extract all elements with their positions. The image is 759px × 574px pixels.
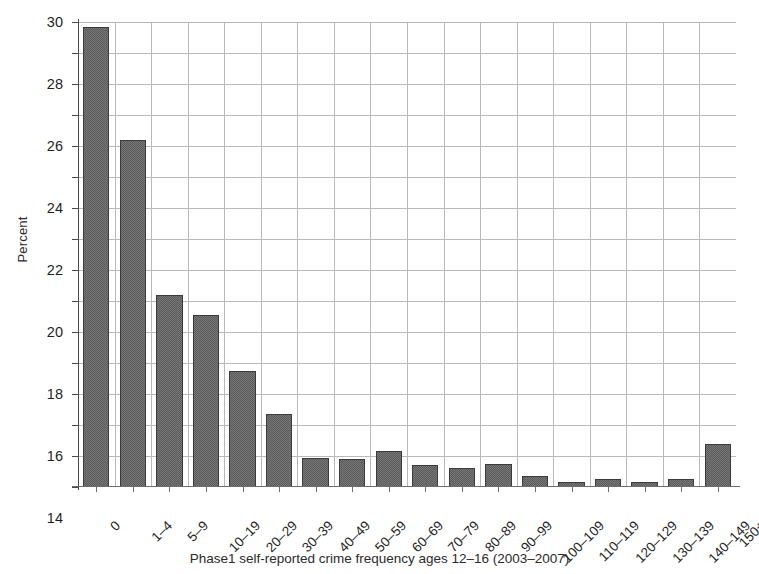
x-axis-tick	[608, 487, 609, 492]
gridline-vertical	[188, 22, 189, 487]
x-axis-tick	[535, 487, 536, 492]
y-axis-tick-label: 16	[47, 448, 63, 464]
x-axis-tick	[681, 487, 682, 492]
gridline-vertical	[444, 22, 445, 487]
x-axis-tick-label: 40–49	[336, 518, 373, 555]
gridline-vertical	[590, 22, 591, 487]
x-axis-tick-label: 30–39	[299, 518, 336, 555]
x-axis-tick	[352, 487, 353, 492]
x-axis-title: Phase1 self-reported crime frequency age…	[0, 551, 759, 566]
bar	[412, 465, 438, 487]
x-axis-tick	[206, 487, 207, 492]
gridline-vertical	[115, 22, 116, 487]
y-axis-tick-label: 30	[47, 14, 63, 30]
y-axis-tick-label: 24	[47, 200, 63, 216]
bar	[120, 140, 146, 487]
gridline-vertical	[407, 22, 408, 487]
x-axis-tick-label: 20–29	[262, 518, 299, 555]
x-axis-tick-label: 5–9	[185, 518, 212, 545]
bar	[485, 464, 511, 487]
bar	[705, 444, 731, 487]
x-axis-tick-label: 80–89	[482, 518, 519, 555]
x-axis-tick	[243, 487, 244, 492]
x-axis-tick-label: 60–69	[409, 518, 446, 555]
bar	[83, 27, 109, 487]
x-axis-line	[72, 486, 740, 487]
x-axis-tick	[169, 487, 170, 492]
gridline-vertical	[224, 22, 225, 487]
gridline-vertical	[553, 22, 554, 487]
gridline-vertical	[334, 22, 335, 487]
y-axis-tick-label: 28	[47, 76, 63, 92]
gridline-vertical	[663, 22, 664, 487]
x-axis-tick-label: 70–79	[445, 518, 482, 555]
x-axis-tick-label: 0	[107, 518, 123, 534]
y-axis-tick-label: 22	[47, 262, 63, 278]
x-axis-tick	[389, 487, 390, 492]
x-axis-tick-label: 10–19	[226, 518, 263, 555]
x-axis-tick	[572, 487, 573, 492]
x-axis-tick	[425, 487, 426, 492]
gridline-vertical	[517, 22, 518, 487]
plot-area: 024681012141618202224262830 01–45–910–19…	[78, 22, 736, 487]
x-axis-tick	[279, 487, 280, 492]
x-axis-tick	[645, 487, 646, 492]
bar	[302, 458, 328, 487]
gridline-vertical	[699, 22, 700, 487]
x-axis-tick	[316, 487, 317, 492]
y-axis-title: Percent	[15, 200, 30, 280]
bar-chart: Percent 024681012141618202224262830 01–4…	[0, 0, 759, 574]
bar	[376, 451, 402, 487]
gridline-vertical	[370, 22, 371, 487]
bar	[449, 468, 475, 487]
bar	[339, 459, 365, 487]
x-axis-tick	[133, 487, 134, 492]
x-axis-tick-label: 50–59	[372, 518, 409, 555]
gridline-vertical	[261, 22, 262, 487]
y-axis-tick-label: 20	[47, 324, 63, 340]
gridline-vertical	[151, 22, 152, 487]
x-axis-tick	[498, 487, 499, 492]
x-axis-tick	[462, 487, 463, 492]
bar	[156, 295, 182, 487]
y-axis-tick-label: 14	[47, 510, 63, 526]
y-axis-line	[78, 19, 79, 490]
gridline-vertical	[480, 22, 481, 487]
x-axis-tick	[718, 487, 719, 492]
x-axis-tick-label: 1–4	[148, 518, 175, 545]
bar	[193, 315, 219, 487]
gridline-vertical	[297, 22, 298, 487]
y-axis-tick-label: 26	[47, 138, 63, 154]
bar	[229, 371, 255, 487]
x-axis-tick-label: 90–99	[518, 518, 555, 555]
x-axis-tick	[96, 487, 97, 492]
gridline-vertical	[626, 22, 627, 487]
bar	[266, 414, 292, 487]
y-axis-tick-label: 18	[47, 386, 63, 402]
